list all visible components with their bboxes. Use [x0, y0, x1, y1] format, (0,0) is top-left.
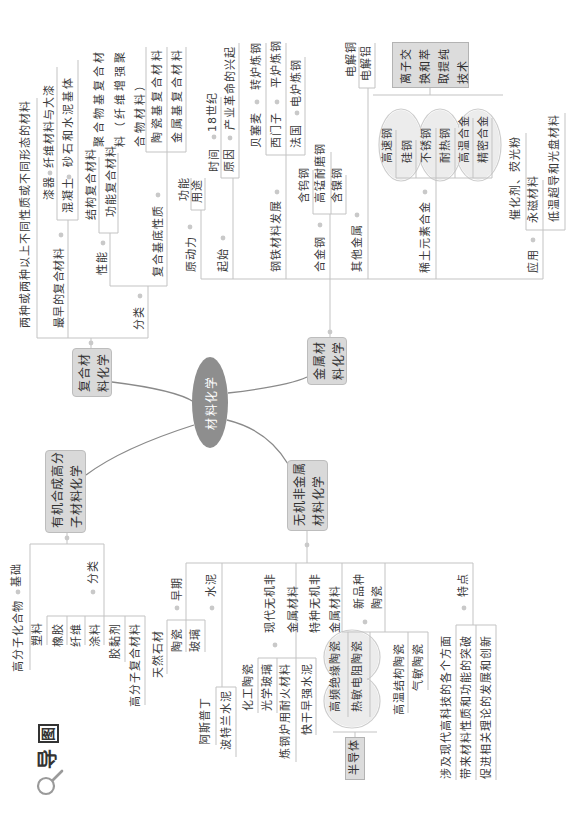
organic-basis-label: 基础 [11, 563, 23, 587]
connector-lines [0, 0, 587, 814]
text-line: 新品种 [351, 573, 369, 609]
inorganic-features-item: 带来材料性质和功能的突破 [461, 635, 473, 779]
metal-applications-item: 永磁材料 [528, 175, 540, 223]
magnifier-icon [38, 771, 62, 794]
topic-line: 子材料化学 [68, 451, 87, 528]
metal-steel-person: 贝塞麦 [251, 112, 263, 148]
mind-map-page: 导 图 材料化学 复合材 料化学 金属材 料化学 有机合成高分 子材料化学 无机… [0, 0, 587, 814]
metal-steel-development-label: 钢铁材料发展 [271, 200, 283, 272]
topic-composite-chemistry: 复合材 料化学 [72, 348, 112, 397]
central-topic-label: 材料化学 [202, 376, 219, 430]
metal-origin-item: 原因 [224, 148, 236, 172]
text-line: 技术 [454, 43, 473, 84]
text-line: 金属材料 [282, 573, 305, 633]
text-line: 聚合物基复合材 [90, 49, 111, 147]
text-line: 合物材料） [131, 49, 152, 147]
text-line: 换和萃 [416, 43, 435, 84]
metal-rare-earth-summary-box: 离子交 换和萃 取提纯 技术 [392, 42, 469, 88]
topic-line: 金属材 [311, 338, 330, 380]
inorganic-features-label: 特点 [458, 573, 470, 597]
metal-rare-earth-item: 不锈钢 [421, 127, 433, 163]
organic-basis-item: 高分子化合物 [13, 600, 25, 672]
metal-applications-item: 低温超导和光盘材料 [549, 114, 561, 222]
organic-classification-item: 高分子复合材料 [130, 623, 142, 707]
metal-rare-earth-item: 高速钢 [382, 127, 394, 163]
inorganic-modern-item: 快干早强水泥 [302, 663, 314, 735]
topic-organic-polymer-chemistry: 有机合成高分 子材料化学 [45, 450, 86, 533]
inorganic-early-item: 陶瓷 [172, 628, 184, 652]
composite-performance-item: 结构复合材料 [86, 148, 98, 220]
metal-alloy-steel-item: 高锰耐磨钢 [315, 143, 327, 203]
organic-classification-item: 胶黏剂 [110, 623, 122, 659]
inorganic-semiconductor-summary-box: 半导体 [345, 737, 365, 780]
metal-rare-earth-item: 硅钢 [402, 139, 414, 163]
composite-definition: 两种或两种以上不同性质或不同形态的材料 [20, 100, 32, 328]
organic-classification-item: 纤维 [71, 623, 83, 647]
organic-classification-item: 涂料 [90, 623, 102, 647]
metal-driving-force-item: 用途 [192, 179, 204, 203]
topic-line: 材料化学 [310, 461, 329, 526]
inorganic-cement-item: 阿斯普丁 [200, 697, 212, 745]
organic-classification-label: 分类 [88, 560, 100, 584]
central-topic: 材料化学 [192, 357, 228, 448]
metal-rare-earth-item: 耐热钢 [440, 127, 452, 163]
text-line: 特种无机非 [306, 573, 326, 633]
composite-matrix-item: 陶瓷基复合材料 [152, 47, 164, 143]
composite-earliest-detail: 纤维材料与大漆 [44, 84, 56, 168]
metal-applications-item: 催化剂、荧光粉 [510, 136, 522, 220]
metal-origin-detail: 产业革命的兴起 [225, 46, 237, 130]
inorganic-cement-label: 水泥 [206, 573, 218, 597]
metal-other-metals-item: 电解铜 [346, 41, 358, 77]
topic-line: 复合材 [76, 349, 95, 392]
composite-classification-label: 分类 [134, 306, 146, 330]
composite-matrix-label: 复合基底性质 [153, 205, 165, 277]
inorganic-modern-item: 炼钢炉用耐火材料 [280, 663, 292, 759]
composite-performance-label: 性能 [97, 251, 109, 275]
organic-classification-item: 橡胶 [53, 623, 65, 647]
inorganic-special-label: 特种无机非 金属材料 [306, 573, 346, 633]
inorganic-modern-label: 现代无机非 金属材料 [259, 573, 305, 633]
composite-performance-item: 功能复合材料 [106, 145, 118, 217]
metal-other-metals-item: 电解铝 [361, 45, 373, 81]
metal-alloy-steel-label: 合金钢 [315, 236, 327, 272]
topic-metal-chemistry: 金属材 料化学 [307, 337, 347, 385]
inorganic-new-ceramics-item: 热敏电阻陶瓷 [352, 640, 364, 712]
metal-rare-earth-item: 高温合金 [459, 115, 471, 163]
organic-classification-item: 塑料 [32, 622, 44, 646]
composite-earliest-detail: 砂石和水泥基体 [63, 76, 75, 167]
metal-steel-method: 平炉炼钢 [271, 40, 283, 88]
topic-line: 无机非金属 [291, 461, 310, 526]
text-line: 现代无机非 [259, 573, 282, 633]
metal-steel-method: 转炉炼钢 [251, 42, 263, 90]
text-line: 料（纤维增强聚 [111, 49, 132, 147]
text-line: 金属材料 [326, 573, 346, 633]
page-title-tu-boxed: 图 [38, 724, 59, 743]
metal-driving-force-label: 原动力 [186, 236, 198, 272]
inorganic-cement-item: 波特兰水泥 [221, 690, 233, 750]
metal-rare-earth-label: 稀土元素合金 [420, 201, 432, 273]
inorganic-early-item: 玻璃 [190, 628, 202, 652]
text-line: 取提纯 [435, 43, 454, 84]
metal-steel-person: 法国 [291, 124, 303, 148]
composite-matrix-item-polymer: 聚合物基复合材 料（纤维增强聚 合物材料） [90, 49, 152, 147]
text-line: 陶瓷 [369, 573, 387, 609]
metal-origin-item: 时间 [209, 148, 221, 172]
inorganic-new-ceramics-label: 新品种 陶瓷 [351, 573, 387, 609]
topic-line: 料化学 [330, 338, 349, 380]
inorganic-new-ceramics-item: 高频绝缘陶瓷 [330, 640, 342, 712]
metal-steel-person: 西门子 [271, 112, 283, 148]
metal-rare-earth-item: 精密合金 [478, 115, 490, 163]
text-line: 离子交 [397, 43, 416, 84]
inorganic-new-ceramics-item: 高温结构陶瓷 [394, 643, 406, 715]
composite-earliest-item: 漆器 [44, 176, 56, 200]
topic-line: 料化学 [95, 349, 114, 392]
summary-label: 半导体 [348, 739, 361, 775]
metal-other-metals-label: 其他金属 [352, 224, 364, 272]
inorganic-new-ceramics-item: 气敏陶瓷 [413, 643, 425, 691]
composite-earliest-item: 混凝土 [63, 177, 75, 213]
metal-driving-force-item: 功能 [179, 177, 191, 201]
metal-origin-detail: 18世纪 [207, 92, 219, 132]
inorganic-modern-item: 化工陶瓷 [243, 663, 255, 711]
metal-steel-method: 电炉炼钢 [291, 59, 303, 107]
metal-origin-label: 起始 [218, 248, 230, 272]
